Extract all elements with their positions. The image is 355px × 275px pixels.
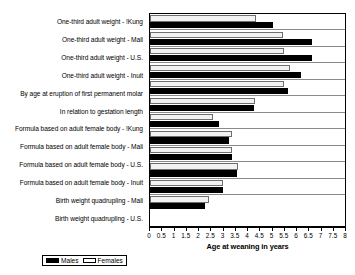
x-axis-tick (186, 227, 187, 231)
bar-females (150, 196, 209, 202)
bar-group-row (150, 129, 345, 145)
bar-females (150, 65, 290, 71)
x-axis-tick (247, 227, 248, 231)
legend-label-males: Males (61, 257, 79, 264)
x-axis-tick-label: 1 (172, 232, 176, 240)
bar-females (150, 131, 232, 137)
bar-males (150, 203, 205, 209)
category-label-column: One-third adult weight - !Kung One-third… (0, 13, 146, 227)
bar-males (150, 187, 223, 193)
x-axis-tick (308, 227, 309, 231)
x-axis-tick-label: 7 (319, 232, 323, 240)
x-axis-tick-label: 7.5 (328, 232, 337, 240)
category-label: Formula based on adult female body - !Ku… (0, 120, 146, 138)
x-axis-tick-label: 0 (147, 232, 151, 240)
category-label: Birth weight quadrupling - Mali (0, 191, 146, 209)
bar-group-row (150, 30, 345, 46)
bar-males (150, 137, 229, 143)
legend-item-females: Females (83, 257, 123, 264)
bar-males (150, 39, 312, 45)
x-axis-tick-label: 2 (196, 232, 200, 240)
bar-males (150, 170, 237, 176)
x-axis-tick-label: 4 (245, 232, 249, 240)
x-axis-tick-label: 3.5 (230, 232, 239, 240)
bar-females (150, 48, 284, 54)
bar-females (150, 147, 232, 153)
bar-group-row (150, 47, 345, 63)
x-axis-tick-label: 8 (343, 232, 347, 240)
category-label: One-third adult weight - !Kung (0, 13, 146, 31)
x-axis-tick (345, 227, 346, 231)
legend-label-females: Females (98, 257, 123, 264)
x-axis-tick (259, 227, 260, 231)
bar-males (150, 55, 312, 61)
x-axis-tick (161, 227, 162, 231)
x-axis-tick-label: 3 (221, 232, 225, 240)
x-axis-tick-label: 0.5 (157, 232, 166, 240)
bar-group-row (150, 80, 345, 96)
x-axis-tick (284, 227, 285, 231)
bar-males (150, 121, 219, 127)
bar-females (150, 98, 255, 104)
bar-group-row (150, 162, 345, 178)
bar-group-row (150, 113, 345, 129)
bar-group-row (150, 146, 345, 162)
legend-swatch-females-icon (83, 258, 96, 263)
x-axis-tick (210, 227, 211, 231)
bar-females (150, 15, 256, 21)
x-axis-tick-label: 5 (270, 232, 274, 240)
x-axis-tick (235, 227, 236, 231)
bar-group-row (150, 63, 345, 79)
bar-group-row (150, 179, 345, 195)
x-axis-tick-label: 6.5 (304, 232, 313, 240)
category-label: Formula based on adult female body - Mal… (0, 138, 146, 156)
bar-males (150, 88, 288, 94)
x-axis-tick (223, 227, 224, 231)
bar-females (150, 32, 283, 38)
legend-item-males: Males (46, 257, 79, 264)
x-axis-tick (321, 227, 322, 231)
bar-females (150, 180, 223, 186)
category-label: One-third adult weight - Mali (0, 31, 146, 49)
category-label: Birth weight quadrupling - U.S. (0, 209, 146, 227)
x-axis-tick-labels: 00.511.522.533.544.555.566.577.58 (140, 232, 355, 242)
bar-females (150, 81, 284, 87)
category-label: In relation to gestation length (0, 102, 146, 120)
x-axis-title: Age at weaning in years (149, 242, 346, 251)
x-axis-tick-label: 6 (294, 232, 298, 240)
category-label: By age at eruption of first permanent mo… (0, 84, 146, 102)
bar-males (150, 105, 254, 111)
category-label: One-third adult weight - Inuit (0, 66, 146, 84)
plot-area (149, 13, 346, 227)
bar-group-row (150, 195, 345, 211)
x-axis-tick-label: 1.5 (181, 232, 190, 240)
chart-legend: Males Females (42, 255, 127, 266)
bar-group-row (150, 14, 345, 30)
x-axis-tick (272, 227, 273, 231)
x-axis-tick-label: 2.5 (206, 232, 215, 240)
bar-males (150, 22, 273, 28)
x-axis-tick (333, 227, 334, 231)
bar-males (150, 154, 232, 160)
x-axis-tick-label: 4.5 (255, 232, 264, 240)
bar-group-row (150, 96, 345, 112)
x-axis-tick (198, 227, 199, 231)
x-axis-tick (149, 227, 150, 231)
weaning-age-bar-chart: One-third adult weight - !Kung One-third… (0, 0, 355, 275)
x-axis-tick-label: 5.5 (279, 232, 288, 240)
category-label: Formula based on adult female body - Inu… (0, 173, 146, 191)
bar-females (150, 163, 238, 169)
x-axis-tick (174, 227, 175, 231)
bar-females (150, 114, 213, 120)
x-axis-tick (296, 227, 297, 231)
category-label: One-third adult weight - U.S. (0, 49, 146, 67)
category-label: Formula based on adult female body - U.S… (0, 156, 146, 174)
bar-males (150, 72, 301, 78)
legend-swatch-males-icon (46, 258, 59, 263)
